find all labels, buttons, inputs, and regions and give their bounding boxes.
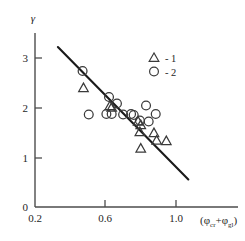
- x-title-paren-close: ): [234, 214, 238, 227]
- x-tick-label-1-0: 1.0: [169, 212, 183, 224]
- circle-marker: [84, 110, 93, 119]
- legend-label-2: - 2: [165, 67, 176, 78]
- x-tick-marks: [105, 200, 176, 207]
- y-tick-label-2: 2: [23, 102, 29, 114]
- circle-marker: [144, 117, 153, 126]
- y-tick-label-3: 3: [23, 52, 29, 64]
- legend: - 1 - 2: [149, 53, 176, 78]
- legend-circle-marker: [150, 67, 159, 76]
- triangle-marker: [149, 128, 159, 136]
- circle-marker: [151, 110, 160, 119]
- x-tick-label-0-2: 0.2: [28, 212, 42, 224]
- y-axis-title: γ: [31, 12, 36, 24]
- triangle-marker: [162, 136, 172, 144]
- triangle-marker: [136, 144, 146, 152]
- y-tick-marks: [35, 58, 42, 158]
- scatter-plot-figure: 3 2 1 0 0.2 0.6 1.0 γ (φcr+φgl) - 1 - 2: [0, 0, 245, 241]
- y-tick-label-1: 1: [23, 152, 29, 164]
- data-markers-layer: [78, 67, 171, 152]
- legend-triangle-marker: [149, 53, 159, 61]
- x-axis-title: (φcr+φgl): [200, 214, 238, 229]
- svg-text:(φcr+φgl): (φcr+φgl): [200, 214, 238, 229]
- legend-label-1: - 1: [165, 53, 176, 64]
- plot-canvas: 3 2 1 0 0.2 0.6 1.0 γ (φcr+φgl) - 1 - 2: [0, 0, 245, 241]
- circle-marker: [142, 101, 151, 110]
- triangle-marker: [79, 83, 89, 91]
- x-tick-label-0-6: 0.6: [98, 212, 112, 224]
